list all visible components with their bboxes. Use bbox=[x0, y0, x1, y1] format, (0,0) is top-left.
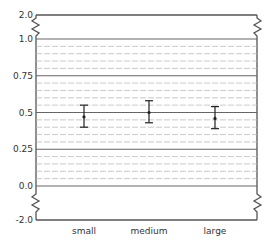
error-bar-large bbox=[211, 107, 219, 129]
error-bar-chart: 2.01.00.750.50.250.0-2.0 smallmediumlarg… bbox=[0, 0, 273, 243]
error-bar-small bbox=[80, 105, 88, 127]
y-tick-label: 1.0 bbox=[19, 34, 34, 44]
x-axis-categories: smallmediumlarge bbox=[72, 226, 227, 236]
plot-frame bbox=[32, 15, 261, 220]
y-tick-label: 0.0 bbox=[19, 181, 34, 191]
y-axis-ticks: 2.01.00.750.50.250.0-2.0 bbox=[13, 10, 33, 225]
y-tick-label: 2.0 bbox=[19, 10, 34, 20]
x-category-label: large bbox=[204, 226, 227, 236]
y-tick-label: 0.75 bbox=[13, 71, 33, 81]
y-tick-label: 0.5 bbox=[19, 108, 33, 118]
gridlines bbox=[36, 39, 257, 186]
y-tick-label: -2.0 bbox=[15, 215, 33, 225]
y-tick-label: 0.25 bbox=[13, 144, 33, 154]
x-category-label: small bbox=[72, 226, 96, 236]
x-category-label: medium bbox=[131, 226, 168, 236]
